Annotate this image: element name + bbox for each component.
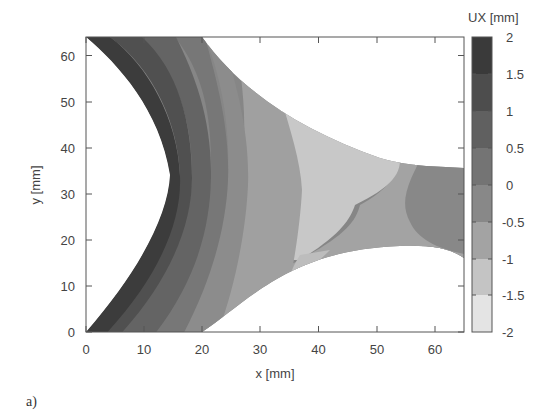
colorbar-tick-label: -0.5 <box>502 215 524 230</box>
colorbar-tick-label: -1.5 <box>502 288 524 303</box>
colorbar <box>472 37 492 332</box>
x-tick-label: 0 <box>82 342 89 357</box>
y-tick-label: 40 <box>61 141 75 156</box>
x-tick-label: 20 <box>195 342 209 357</box>
x-tick-label: 60 <box>428 342 442 357</box>
colorbar-tick-label: 0.5 <box>506 141 524 156</box>
colorbar-title: UX [mm] <box>468 10 519 25</box>
y-axis-label: y [mm] <box>28 166 43 205</box>
x-axis-label: x [mm] <box>256 366 295 381</box>
colorbar-tick-label: 1 <box>506 104 513 119</box>
y-tick-label: 30 <box>61 187 75 202</box>
colorbar-tick-label: -2 <box>502 325 514 340</box>
y-tick-label: 0 <box>68 325 75 340</box>
x-tick-label: 30 <box>253 342 267 357</box>
y-tick-label: 10 <box>61 279 75 294</box>
colorbar-tick-label: 0 <box>506 178 513 193</box>
y-tick-label: 20 <box>61 233 75 248</box>
colorbar-tick-label: 1.5 <box>506 67 524 82</box>
y-tick-label: 60 <box>61 49 75 64</box>
colorbar-tick-label: 2 <box>506 30 513 45</box>
x-tick-label: 10 <box>137 342 151 357</box>
colorbar-tick-label: -1 <box>502 252 514 267</box>
y-tick-label: 50 <box>61 95 75 110</box>
x-tick-label: 50 <box>370 342 384 357</box>
panel-label: a) <box>26 394 37 410</box>
x-tick-label: 40 <box>311 342 325 357</box>
contour-chart: 0 10 20 30 40 50 60 0 10 20 30 40 50 60 … <box>0 0 555 413</box>
contour-bands <box>86 37 470 340</box>
